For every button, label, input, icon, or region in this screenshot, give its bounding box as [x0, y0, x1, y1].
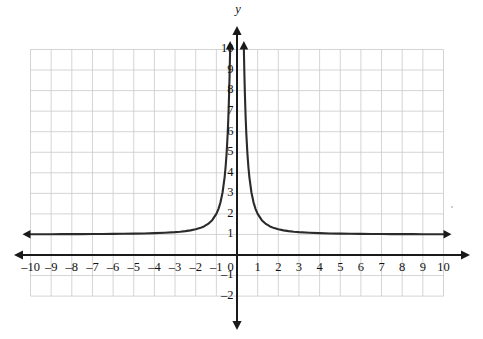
y-axis-arrow-down-icon: [232, 321, 241, 330]
x-tick-label: 2: [275, 260, 281, 274]
x-axis-arrow-right-icon: [461, 250, 470, 259]
curve-arrow-horizontal-icon: [444, 230, 452, 239]
curve-branch: [31, 50, 231, 235]
x-tick-label: –8: [65, 260, 79, 274]
x-tick-label: –6: [106, 260, 120, 274]
x-axis-tick-labels: –10–9–8–7–6–5–4–3–2–1012345678910: [20, 260, 450, 274]
y-axis-label: y: [233, 2, 241, 16]
x-tick-label: 10: [437, 260, 450, 274]
x-tick-label: 1: [255, 260, 261, 274]
x-tick-label: 5: [337, 260, 343, 274]
curve-branch: [244, 50, 444, 235]
x-tick-label: –10: [20, 260, 40, 274]
y-tick-label: 2: [227, 206, 233, 220]
x-tick-label: –2: [188, 260, 202, 274]
x-tick-label: –3: [168, 260, 182, 274]
y-tick-label: 1: [227, 226, 233, 240]
x-tick-label: –9: [44, 260, 58, 274]
graph-figure: –10–9–8–7–6–5–4–3–2–1012345678910 109876…: [0, 0, 483, 339]
x-tick-label: 6: [358, 260, 364, 274]
x-tick-label: –4: [147, 260, 161, 274]
axes: [14, 26, 470, 330]
y-tick-label: 3: [227, 185, 233, 199]
x-tick-label: 7: [378, 260, 384, 274]
curve-arrow-horizontal-icon: [23, 230, 31, 239]
page-speck: [451, 206, 453, 208]
y-tick-label: 4: [227, 165, 234, 179]
y-tick-label: 10: [221, 41, 234, 55]
y-tick-label: 8: [227, 82, 233, 96]
x-tick-label: 4: [316, 260, 323, 274]
y-tick-label: 9: [227, 62, 233, 76]
y-tick-label: –2: [220, 288, 234, 302]
x-tick-label: 8: [399, 260, 405, 274]
y-axis-arrow-up-icon: [232, 26, 241, 35]
x-tick-label: –7: [85, 260, 99, 274]
coordinate-plane-chart: –10–9–8–7–6–5–4–3–2–1012345678910 109876…: [0, 0, 483, 339]
x-tick-label: –5: [127, 260, 141, 274]
x-axis-arrow-left-icon: [14, 250, 23, 259]
x-tick-label: 9: [420, 260, 426, 274]
y-tick-label: 6: [227, 124, 233, 138]
y-tick-label: 5: [227, 144, 233, 158]
y-tick-label: 7: [227, 103, 233, 117]
x-tick-label: 3: [296, 260, 302, 274]
y-tick-label: –1: [220, 267, 234, 281]
curve-arrow-vertical-icon: [240, 41, 249, 50]
